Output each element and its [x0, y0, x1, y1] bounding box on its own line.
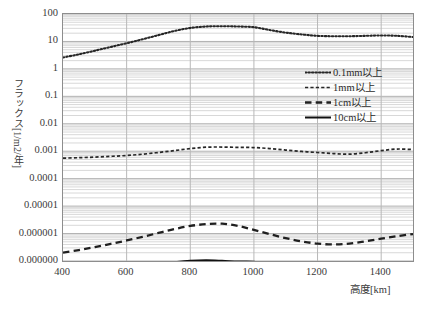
- x-tick-label: 400: [34, 266, 90, 277]
- dashed-line-key: [305, 97, 331, 108]
- x-tick-label: 800: [161, 266, 217, 277]
- series-line-0: [63, 26, 413, 57]
- y-tick-label: 0.000000: [2, 254, 58, 265]
- series-line-3: [63, 260, 413, 261]
- legend-item-0[interactable]: 0.1mm以上: [305, 66, 382, 79]
- data-series-lines: [63, 14, 413, 261]
- plot-area: [62, 13, 414, 262]
- legend-item-label: 0.1mm以上: [333, 66, 382, 79]
- y-tick-label: 0.00001: [2, 199, 58, 210]
- y-tick-label: 1: [2, 62, 58, 73]
- x-tick-label: 1400: [352, 266, 408, 277]
- x-tick-label: 1200: [289, 266, 345, 277]
- series-line-2: [63, 224, 413, 253]
- y-tick-label: 0.000001: [2, 227, 58, 238]
- x-tick-label: 1000: [225, 266, 281, 277]
- y-tick-label: 100: [2, 7, 58, 18]
- x-axis-title: 高度[km]: [350, 284, 390, 296]
- y-tick-label: 10: [2, 34, 58, 45]
- debris-flux-chart: フラックス[1/m2/年] 1001010.10.010.0010.00010.…: [0, 0, 429, 309]
- legend-item-1[interactable]: 1mm以上: [305, 81, 382, 94]
- y-tick-label: 0.1: [2, 89, 58, 100]
- legend-item-label: 10cm以上: [333, 111, 376, 124]
- y-tick-label: 0.001: [2, 144, 58, 155]
- dotted-line-key: [305, 67, 331, 78]
- x-tick-label: 600: [98, 266, 154, 277]
- solid-line-key: [305, 112, 331, 123]
- y-tick-label: 0.0001: [2, 172, 58, 183]
- fine-dashed-line-key: [305, 82, 331, 93]
- legend-item-2[interactable]: 1cm以上: [305, 96, 382, 109]
- y-tick-label: 0.01: [2, 117, 58, 128]
- legend: 0.1mm以上1mm以上1cm以上10cm以上: [305, 66, 382, 124]
- series-line-1: [63, 147, 413, 158]
- legend-item-label: 1cm以上: [333, 96, 371, 109]
- legend-item-3[interactable]: 10cm以上: [305, 111, 382, 124]
- legend-item-label: 1mm以上: [333, 81, 375, 94]
